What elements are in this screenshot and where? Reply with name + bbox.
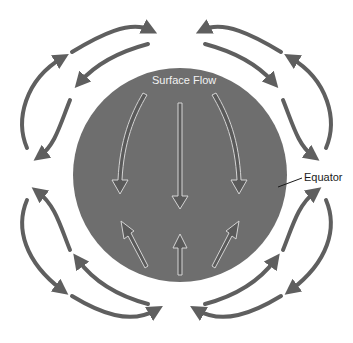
equator-label: Equator	[304, 171, 343, 184]
surface-flow-label: Surface Flow	[152, 74, 216, 87]
atmospheric-circulation-diagram: Surface Flow Equator	[0, 0, 353, 343]
